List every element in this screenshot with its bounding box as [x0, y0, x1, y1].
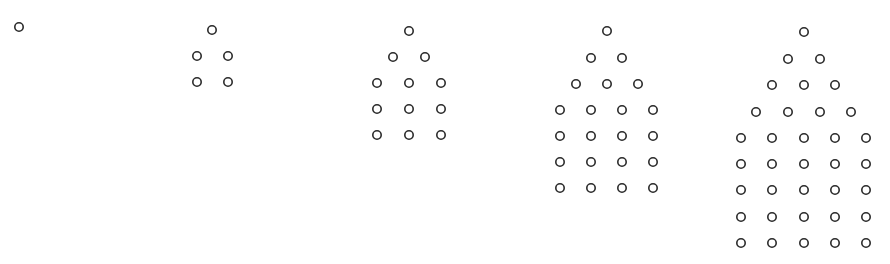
circle-dot: [768, 213, 776, 221]
circle-dot: [405, 27, 413, 35]
circle-dot: [649, 132, 657, 140]
circle-dot: [800, 160, 808, 168]
circle-dot: [768, 186, 776, 194]
circle-dot: [800, 28, 808, 36]
circle-dot: [572, 80, 580, 88]
circle-dot: [373, 79, 381, 87]
circle-dot: [618, 106, 626, 114]
circle-dot: [768, 81, 776, 89]
circle-dot: [15, 23, 23, 31]
circle-dot: [373, 131, 381, 139]
circle-dot: [784, 108, 792, 116]
circle-dot: [831, 134, 839, 142]
circle-dot: [800, 213, 808, 221]
circle-dot: [862, 160, 870, 168]
circle-dot: [737, 160, 745, 168]
circle-dot: [831, 239, 839, 247]
circle-dot: [831, 160, 839, 168]
circle-dot: [649, 106, 657, 114]
dot-pattern-canvas: [0, 0, 890, 264]
figure-4: [556, 27, 657, 192]
circle-dot: [556, 184, 564, 192]
circle-dot: [752, 108, 760, 116]
circle-dot: [587, 158, 595, 166]
circle-dot: [437, 79, 445, 87]
circle-dot: [800, 239, 808, 247]
circle-dot: [862, 186, 870, 194]
circle-dot: [405, 131, 413, 139]
circle-dot: [634, 80, 642, 88]
circle-dot: [603, 27, 611, 35]
circle-dot: [587, 54, 595, 62]
circle-dot: [862, 134, 870, 142]
circle-dot: [737, 213, 745, 221]
circle-dot: [421, 53, 429, 61]
circle-dot: [649, 158, 657, 166]
figure-3: [373, 27, 445, 139]
circle-dot: [768, 134, 776, 142]
circle-dot: [373, 105, 381, 113]
circle-dot: [737, 239, 745, 247]
circle-dot: [847, 108, 855, 116]
circle-dot: [768, 239, 776, 247]
circle-dot: [208, 26, 216, 34]
circle-dot: [816, 108, 824, 116]
circle-dot: [556, 106, 564, 114]
circle-dot: [587, 132, 595, 140]
circle-dot: [618, 184, 626, 192]
circle-dot: [800, 81, 808, 89]
circle-dot: [737, 134, 745, 142]
circle-dot: [193, 78, 201, 86]
circle-dot: [437, 105, 445, 113]
circle-dot: [556, 158, 564, 166]
circle-dot: [405, 105, 413, 113]
figure-2: [193, 26, 232, 86]
dot-pattern-figures: [0, 0, 890, 264]
circle-dot: [603, 80, 611, 88]
circle-dot: [649, 184, 657, 192]
circle-dot: [587, 106, 595, 114]
circle-dot: [816, 55, 824, 63]
circle-dot: [389, 53, 397, 61]
circle-dot: [862, 239, 870, 247]
circle-dot: [768, 160, 776, 168]
circle-dot: [800, 186, 808, 194]
circle-dot: [405, 79, 413, 87]
figure-1: [15, 23, 23, 31]
circle-dot: [784, 55, 792, 63]
circle-dot: [618, 54, 626, 62]
circle-dot: [193, 52, 201, 60]
circle-dot: [224, 52, 232, 60]
circle-dot: [831, 81, 839, 89]
circle-dot: [618, 132, 626, 140]
circle-dot: [618, 158, 626, 166]
circle-dot: [556, 132, 564, 140]
circle-dot: [224, 78, 232, 86]
figure-5: [737, 28, 870, 247]
circle-dot: [831, 213, 839, 221]
circle-dot: [800, 134, 808, 142]
circle-dot: [437, 131, 445, 139]
circle-dot: [737, 186, 745, 194]
circle-dot: [831, 186, 839, 194]
circle-dot: [587, 184, 595, 192]
circle-dot: [862, 213, 870, 221]
